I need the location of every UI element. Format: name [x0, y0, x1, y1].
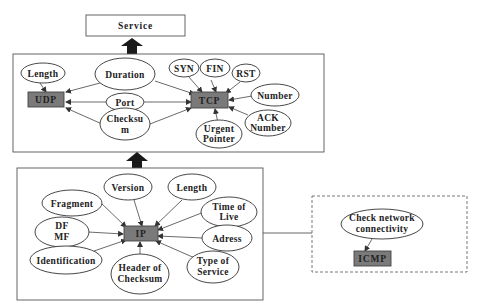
svg-text:m: m	[121, 125, 129, 135]
udp-label: UDP	[35, 95, 57, 105]
field-fragment: Fragment	[42, 190, 102, 216]
svg-text:connectivity: connectivity	[356, 224, 409, 234]
svg-text:MF: MF	[54, 232, 69, 242]
field-syn: SYN	[169, 59, 199, 77]
svg-text:Checksu: Checksu	[107, 114, 144, 124]
svg-text:Number: Number	[250, 123, 286, 133]
field-header-of-checksum: Header of Checksum	[111, 254, 169, 294]
svg-text:SYN: SYN	[174, 64, 194, 74]
icmp-node: ICMP	[354, 251, 391, 266]
up-arrow-network-to-transport	[126, 152, 148, 168]
icmp-label: ICMP	[358, 254, 387, 264]
field-checksum: Checksu m	[100, 108, 150, 140]
field-time-of-live: Time of Live	[201, 197, 257, 227]
svg-text:Checksum: Checksum	[117, 274, 162, 284]
svg-text:Length: Length	[177, 183, 208, 193]
svg-text:FIN: FIN	[206, 64, 223, 74]
field-ack-number: ACK Number	[245, 110, 291, 136]
ip-node: IP	[124, 226, 158, 241]
icmp-purpose-ellipse: Check network connectivity	[341, 209, 423, 239]
svg-text:Type of: Type of	[197, 256, 230, 266]
svg-text:Service: Service	[197, 267, 229, 277]
svg-text:Header of: Header of	[119, 263, 162, 273]
svg-text:Duration: Duration	[105, 70, 145, 80]
service-label: Service	[118, 21, 153, 31]
up-arrow-transport-to-service	[121, 38, 143, 54]
field-identification: Identification	[30, 246, 102, 274]
field-duration: Duration	[95, 58, 155, 90]
field-rst: RST	[232, 64, 260, 82]
svg-text:Live: Live	[219, 212, 238, 222]
svg-text:Adress: Adress	[212, 234, 242, 244]
field-urgent-pointer: Urgent Pointer	[196, 120, 242, 148]
svg-text:Port: Port	[115, 98, 135, 108]
field-version: Version	[104, 174, 152, 200]
field-df-mf: DF MF	[35, 217, 89, 247]
svg-text:DF: DF	[55, 221, 68, 231]
svg-text:Length: Length	[28, 69, 59, 79]
svg-text:Urgent: Urgent	[204, 124, 235, 134]
ip-label: IP	[135, 229, 146, 239]
protocol-diagram: Service UDP TCP Length Duration	[0, 0, 480, 305]
udp-node: UDP	[28, 92, 64, 107]
svg-text:ACK: ACK	[257, 113, 279, 123]
svg-text:Identification: Identification	[36, 256, 96, 266]
svg-text:Time of: Time of	[212, 202, 246, 212]
svg-text:Number: Number	[257, 91, 293, 101]
field-adress: Adress	[202, 225, 252, 251]
svg-text:Check network: Check network	[349, 213, 415, 223]
svg-text:Version: Version	[112, 183, 145, 193]
field-ip-length: Length	[168, 174, 216, 200]
field-type-of-service: Type of Service	[187, 251, 239, 283]
field-udp-length: Length	[21, 63, 65, 83]
field-fin: FIN	[200, 59, 230, 77]
svg-text:Fragment: Fragment	[51, 199, 94, 209]
field-number: Number	[251, 84, 299, 106]
service-box: Service	[86, 15, 185, 36]
tcp-node: TCP	[191, 92, 228, 108]
svg-text:Pointer: Pointer	[203, 134, 236, 144]
svg-text:RST: RST	[236, 69, 256, 79]
tcp-label: TCP	[199, 96, 220, 106]
